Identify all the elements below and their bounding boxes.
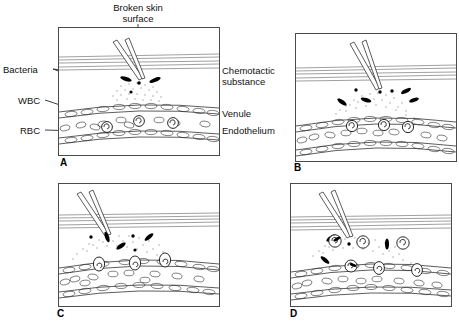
- label-endothelium: Endothelium: [222, 125, 275, 136]
- label-bacteria: Bacteria: [3, 64, 38, 75]
- figure-root: Broken skin surface Bacteria WBC RBC Che…: [0, 0, 459, 322]
- panel-b: [295, 33, 457, 162]
- skin-surface-lines: [291, 215, 451, 230]
- panel-a: [58, 27, 220, 156]
- panel-c: [58, 183, 220, 307]
- splinter-shape: [319, 190, 353, 238]
- label-broken-skin-surface: Broken skin surface: [88, 2, 188, 24]
- panel-letter-a: A: [60, 157, 67, 168]
- chemotactic-stipple: [335, 92, 414, 118]
- panel-letter-c: C: [57, 308, 64, 319]
- label-chemotactic-substance: Chemotactic substance: [222, 65, 275, 87]
- bacteria-rods: [336, 87, 419, 107]
- splinter-shape: [350, 40, 382, 90]
- bacteria-rods: [89, 231, 154, 251]
- panel-letter-d: D: [290, 308, 297, 319]
- rbc-cells: [60, 270, 205, 286]
- chemotactic-stipple: [112, 82, 161, 101]
- splinter-shape: [77, 190, 111, 236]
- rbc-cells: [297, 128, 448, 143]
- panel-d: [290, 183, 452, 307]
- label-wbc: WBC: [18, 95, 40, 106]
- panel-letter-b: B: [294, 162, 301, 173]
- label-venule: Venule: [222, 108, 251, 119]
- label-rbc: RBC: [20, 125, 40, 136]
- venule-endothelium: [296, 118, 456, 156]
- skin-surface-lines: [59, 213, 219, 228]
